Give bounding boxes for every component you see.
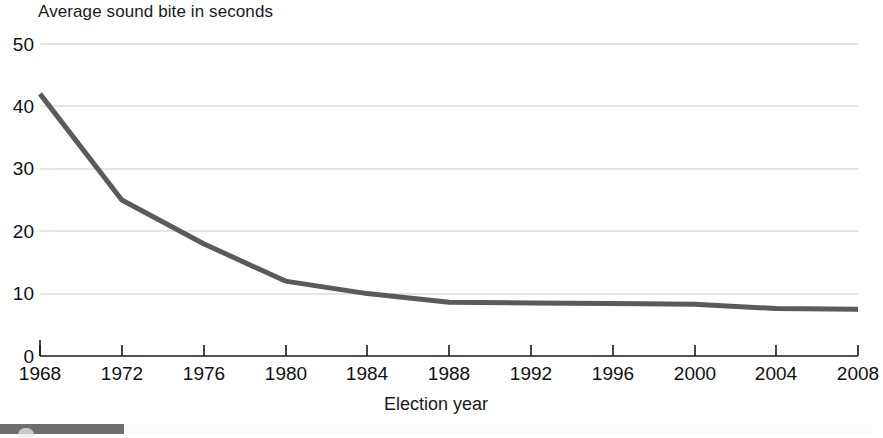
x-axis-tick-label-2008: 2008 (818, 364, 883, 383)
x-axis-tick-label-1980: 1980 (246, 364, 326, 383)
gridlines (40, 44, 858, 294)
bottom-bar-knob-icon (18, 428, 34, 438)
x-axis-tick-label-1972: 1972 (82, 364, 162, 383)
x-axis-title: Election year (0, 394, 872, 415)
x-axis-tick-label-1968: 1968 (0, 364, 80, 383)
bottom-strip (124, 424, 872, 434)
x-axis-tick-label-2004: 2004 (736, 364, 816, 383)
x-axis-tick-label-1976: 1976 (164, 364, 244, 383)
x-axis-tick-label-1984: 1984 (327, 364, 407, 383)
bottom-progress-bar (0, 424, 124, 434)
x-axis-tick-label-1988: 1988 (409, 364, 489, 383)
x-axis-tick-label-2000: 2000 (655, 364, 735, 383)
x-axis-tick-label-1996: 1996 (573, 364, 653, 383)
x-axis (40, 345, 858, 356)
x-axis-tick-label-1992: 1992 (491, 364, 571, 383)
data-line-average-sound-bite (40, 94, 858, 309)
